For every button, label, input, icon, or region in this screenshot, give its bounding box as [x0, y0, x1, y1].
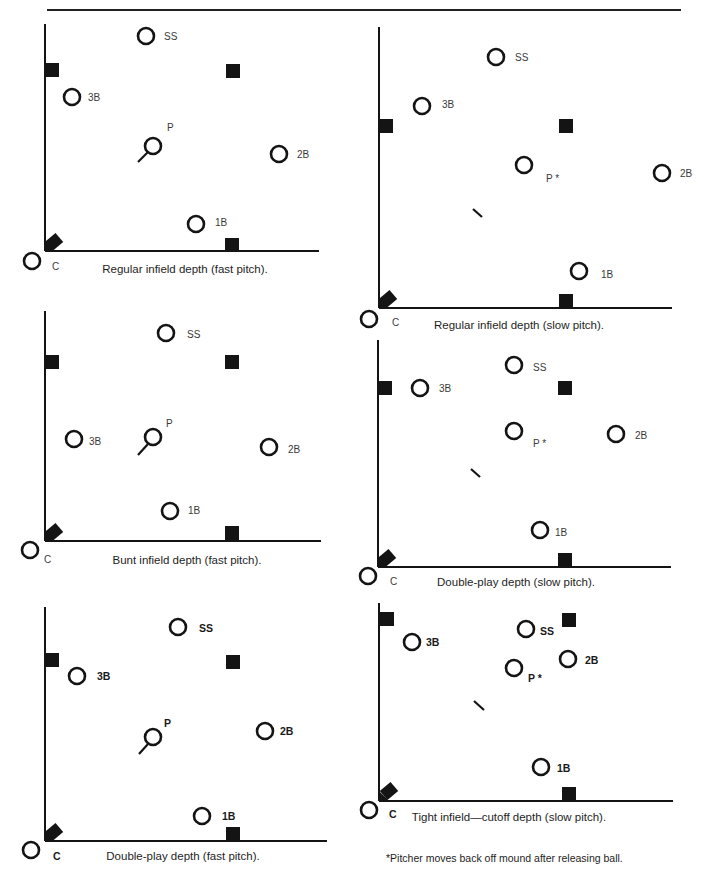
player-3b: 3B [69, 668, 111, 684]
player-3b: 3B [404, 634, 440, 650]
player-circle-icon [145, 429, 161, 445]
player-1b: 1B [571, 263, 614, 280]
second-base-icon [226, 64, 240, 78]
player-label: 3B [426, 636, 440, 648]
player-circle-icon [138, 28, 154, 44]
pitcher-rubber-icon [473, 209, 482, 217]
player-label: SS [187, 329, 201, 340]
player-circle-icon [412, 380, 428, 396]
player-circle-icon [506, 660, 522, 676]
player-circle-icon [66, 431, 82, 447]
player-label: 1B [215, 217, 228, 228]
player-label: 1B [601, 269, 614, 280]
player-circle-icon [560, 651, 576, 667]
player-p: P [145, 717, 171, 745]
player-label: 2B [280, 725, 294, 737]
pitcher-rubber-icon [474, 701, 484, 710]
player-1b: 1B [532, 522, 568, 538]
player-ss: SS [488, 49, 529, 65]
pitcher-rubber-icon [138, 152, 148, 162]
player-label: SS [540, 625, 554, 637]
player-label: P [167, 122, 174, 133]
diagram-caption: Double-play depth (slow pitch). [437, 576, 595, 588]
player-ss: SS [138, 28, 178, 44]
player-label: C [52, 261, 59, 272]
first-base-icon [225, 238, 239, 252]
player-circle-icon [145, 138, 161, 154]
footnote: *Pitcher moves back off mound after rele… [386, 852, 623, 864]
player-label: P * [528, 672, 543, 684]
player-1b: 1B [188, 216, 228, 232]
player-c: C [24, 253, 59, 272]
player-circle-icon [532, 522, 548, 538]
player-c: C [360, 568, 397, 587]
player-circle-icon [571, 263, 587, 279]
diagram-tight-cutoff-slow: SS3BP *2B1BCTight infield—cutoff depth (… [361, 603, 673, 823]
player-circle-icon [64, 89, 80, 105]
player-c: C [361, 311, 399, 328]
player-circle-icon [22, 542, 38, 558]
player-label: 3B [89, 436, 102, 447]
player-3b: 3B [412, 380, 452, 396]
diagram-caption: Bunt infield depth (fast pitch). [113, 554, 262, 566]
player-2b: 2B [654, 165, 693, 181]
player-circle-icon [194, 808, 210, 824]
player-circle-icon [518, 621, 534, 637]
player-c: C [22, 542, 51, 565]
player-circle-icon [257, 723, 273, 739]
pitcher-rubber-icon [139, 744, 148, 754]
player-1b: 1B [162, 503, 201, 519]
diagram-bunt-fast: SS3BP2B1BCBunt infield depth (fast pitch… [22, 311, 321, 566]
player-circle-icon [145, 729, 161, 745]
player-label: P [164, 717, 171, 729]
player-label: SS [199, 622, 213, 634]
third-base-icon [379, 119, 393, 133]
player-ss: SS [158, 325, 201, 341]
player-c: C [23, 842, 61, 862]
second-base-icon [562, 613, 576, 627]
third-base-icon [45, 355, 59, 369]
player-label: C [392, 317, 399, 328]
player-label: SS [533, 362, 547, 373]
first-base-icon [559, 294, 573, 308]
player-circle-icon [271, 146, 287, 162]
player-label: SS [515, 52, 529, 63]
diagram-caption: Tight infield—cutoff depth (slow pitch). [412, 811, 606, 823]
player-3b: 3B [64, 89, 101, 105]
second-base-icon [559, 119, 573, 133]
player-p: P [145, 418, 173, 445]
player-circle-icon [608, 426, 624, 442]
diagram-caption: Regular infield depth (fast pitch). [102, 263, 268, 275]
player-circle-icon [488, 49, 504, 65]
diagram-doubleplay-fast: SS3BP2B1BCDouble-play depth (fast pitch)… [23, 607, 327, 862]
first-base-icon [562, 787, 576, 801]
player-label: C [44, 554, 51, 565]
player-circle-icon [360, 568, 376, 584]
player-2b: 2B [608, 426, 648, 442]
third-base-icon [378, 381, 392, 395]
player-label: 3B [88, 92, 101, 103]
player-label: 1B [555, 527, 568, 538]
player-label: 3B [439, 383, 452, 394]
infield-diagrams: SS3BP2B1BCRegular infield depth (fast pi… [0, 0, 720, 889]
pitcher-rubber-icon [138, 444, 148, 455]
player-label: 1B [557, 762, 571, 774]
diagram-regular-slow: SS3BP *2B1BCRegular infield depth (slow … [361, 27, 693, 331]
player-p: P * [506, 660, 543, 684]
player-p: P * [516, 157, 559, 184]
player-label: SS [164, 31, 178, 42]
player-ss: SS [506, 357, 547, 373]
player-label: 1B [222, 810, 236, 822]
diagram-doubleplay-slow: SS3BP *2B1BCDouble-play depth (slow pitc… [360, 340, 671, 588]
first-base-icon [225, 526, 239, 540]
player-circle-icon [170, 619, 186, 635]
player-p: P [145, 122, 174, 154]
player-1b: 1B [194, 808, 236, 824]
player-circle-icon [361, 802, 377, 818]
player-label: C [53, 850, 61, 862]
player-label: 1B [188, 505, 201, 516]
player-2b: 2B [271, 146, 310, 162]
player-circle-icon [361, 311, 377, 327]
diagram-caption: Double-play depth (fast pitch). [106, 850, 259, 862]
player-circle-icon [24, 253, 40, 269]
